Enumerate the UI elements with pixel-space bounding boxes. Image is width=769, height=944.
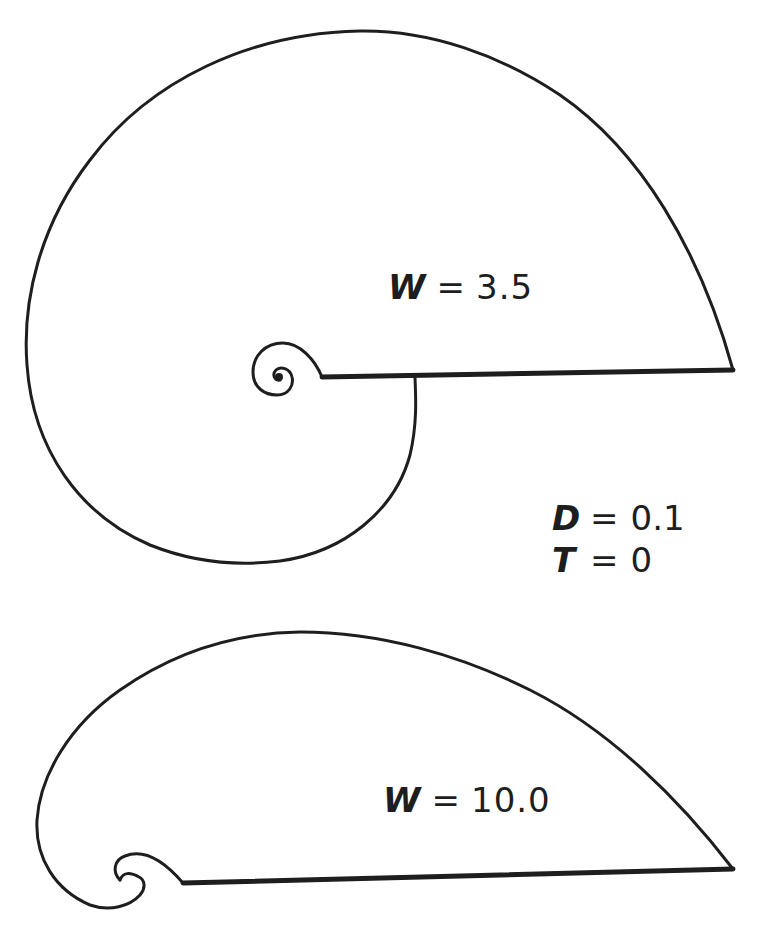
parameter-d-variable: D xyxy=(552,497,582,539)
lower-shell-equals: = xyxy=(432,780,462,820)
upper-shell-value: 3.5 xyxy=(476,267,533,307)
lower-shell-aperture-line xyxy=(183,869,733,883)
upper-shell-inner-spiral xyxy=(253,343,322,395)
parameter-t: T=0 xyxy=(552,539,685,581)
lower-shell-outer-whorl xyxy=(37,632,733,908)
upper-shell-variable: W xyxy=(388,267,427,307)
upper-shell-outer-whorl xyxy=(26,31,733,563)
parameter-t-equals: = xyxy=(590,540,619,580)
parameter-d-value: 0.1 xyxy=(631,498,685,538)
lower-shell-inner-hook xyxy=(115,854,183,883)
parameter-d: D=0.1 xyxy=(552,497,685,539)
upper-shell-protoconch xyxy=(275,373,283,381)
parameter-t-variable: T xyxy=(552,539,582,581)
lower-shell-value: 10.0 xyxy=(471,780,551,820)
upper-shell-label: W=3.5 xyxy=(388,270,533,304)
parameter-d-equals: = xyxy=(590,498,619,538)
lower-shell-label: W=10.0 xyxy=(383,783,551,817)
lower-shell-variable: W xyxy=(383,780,422,820)
upper-shell-equals: = xyxy=(437,267,467,307)
upper-shell-aperture-line xyxy=(322,370,733,377)
lower-shell xyxy=(37,632,733,908)
upper-shell xyxy=(26,31,733,563)
shared-parameters: D=0.1 T=0 xyxy=(552,497,685,581)
parameter-t-value: 0 xyxy=(631,540,653,580)
